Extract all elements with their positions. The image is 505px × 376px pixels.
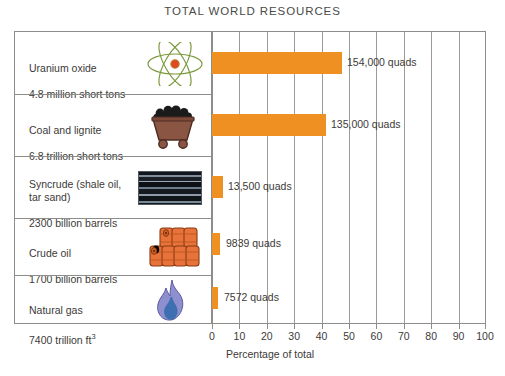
table-row: Coal and lignite 6.8 trillion short tons bbox=[15, 94, 212, 156]
bar-natural-gas bbox=[212, 287, 218, 309]
resource-name: Crude oil bbox=[29, 247, 71, 259]
bar-label-syncrude: 13,500 quads bbox=[228, 180, 292, 192]
tick-label-10: 10 bbox=[234, 330, 246, 342]
gridline-10 bbox=[239, 32, 240, 323]
chart-page: TOTAL WORLD RESOURCES Uranium oxide 4.8 … bbox=[0, 0, 505, 376]
tick-label-50: 50 bbox=[343, 330, 355, 342]
table-row: Uranium oxide 4.8 million short tons bbox=[15, 32, 212, 94]
resource-name: Uranium oxide bbox=[29, 62, 97, 74]
coal-cart-icon bbox=[146, 102, 200, 150]
tick-mark-80 bbox=[431, 324, 432, 329]
table-row: Crude oil 1700 billion barrels bbox=[15, 218, 212, 275]
bar-coal-and-lignite bbox=[212, 114, 326, 136]
bar-label-uranium-oxide: 154,000 quads bbox=[347, 56, 416, 68]
tick-mark-0 bbox=[212, 324, 213, 329]
atom-icon bbox=[144, 42, 206, 86]
tick-mark-10 bbox=[239, 324, 240, 329]
bar-uranium-oxide bbox=[212, 52, 342, 74]
tick-mark-30 bbox=[294, 324, 295, 329]
gridline-60 bbox=[376, 32, 377, 323]
shale-rock-texture bbox=[138, 171, 202, 205]
coal-cart-icon-svg bbox=[146, 102, 200, 150]
shale-rock-icon bbox=[138, 171, 202, 205]
gridline-70 bbox=[404, 32, 405, 323]
tick-label-100: 100 bbox=[476, 330, 494, 342]
x-axis: 0 10 20 30 40 50 60 70 80 90 100 Percent… bbox=[14, 324, 486, 376]
resource-name: Natural gas bbox=[29, 304, 83, 316]
gridline-50 bbox=[349, 32, 350, 323]
tick-label-40: 40 bbox=[316, 330, 328, 342]
gridline-20 bbox=[267, 32, 268, 323]
table-row: Syncrude (shale oil, tar sand) 2300 bill… bbox=[15, 156, 212, 218]
tick-mark-50 bbox=[349, 324, 350, 329]
tick-label-60: 60 bbox=[371, 330, 383, 342]
tick-label-70: 70 bbox=[398, 330, 410, 342]
bar-label-coal-and-lignite: 135,000 quads bbox=[331, 118, 400, 130]
tick-mark-60 bbox=[376, 324, 377, 329]
tick-label-20: 20 bbox=[261, 330, 273, 342]
gridline-30 bbox=[294, 32, 295, 323]
resource-label-column: Uranium oxide 4.8 million short tons bbox=[15, 32, 212, 323]
bar-label-natural-gas: 7572 quads bbox=[224, 291, 279, 303]
table-row: Natural gas 7400 trillion ft3 bbox=[15, 275, 212, 325]
resource-name: Syncrude (shale oil, tar sand) bbox=[29, 178, 121, 203]
gas-flame-icon-svg bbox=[152, 278, 190, 324]
x-axis-title: Percentage of total bbox=[14, 348, 486, 360]
tick-mark-100 bbox=[485, 324, 486, 329]
tick-label-90: 90 bbox=[453, 330, 465, 342]
atom-icon-svg bbox=[144, 42, 206, 86]
bar-label-crude-oil: 9839 quads bbox=[226, 237, 281, 249]
gridline-90 bbox=[459, 32, 460, 323]
page-title: TOTAL WORLD RESOURCES bbox=[0, 5, 505, 17]
gridline-80 bbox=[431, 32, 432, 323]
tick-mark-20 bbox=[267, 324, 268, 329]
tick-mark-90 bbox=[459, 324, 460, 329]
oil-barrels-icon-svg bbox=[144, 225, 202, 271]
tick-label-80: 80 bbox=[425, 330, 437, 342]
gridline-40 bbox=[322, 32, 323, 323]
oil-barrels-icon bbox=[144, 225, 202, 271]
tick-mark-70 bbox=[404, 324, 405, 329]
bar-crude-oil bbox=[212, 233, 220, 255]
tick-label-30: 30 bbox=[288, 330, 300, 342]
tick-mark-40 bbox=[322, 324, 323, 329]
chart-frame: Uranium oxide 4.8 million short tons bbox=[14, 31, 486, 324]
plot-area: 154,000 quads 135,000 quads 13,500 quads… bbox=[212, 32, 485, 323]
bar-syncrude bbox=[212, 176, 223, 198]
tick-label-0: 0 bbox=[209, 330, 215, 342]
resource-name: Coal and lignite bbox=[29, 124, 101, 136]
gas-flame-icon bbox=[152, 278, 190, 324]
